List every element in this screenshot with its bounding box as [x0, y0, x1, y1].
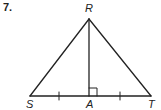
vertex-label-a: A — [86, 99, 93, 110]
geometry-figure: 7. R S A T — [0, 0, 161, 110]
triangle-diagram — [0, 0, 161, 110]
vertex-label-t: T — [148, 99, 155, 110]
problem-number: 7. — [3, 1, 12, 13]
segment-rt — [89, 19, 151, 96]
segment-rs — [30, 19, 89, 96]
vertex-label-r: R — [85, 3, 93, 14]
right-angle-mark-icon — [89, 88, 97, 96]
vertex-label-s: S — [26, 99, 33, 110]
